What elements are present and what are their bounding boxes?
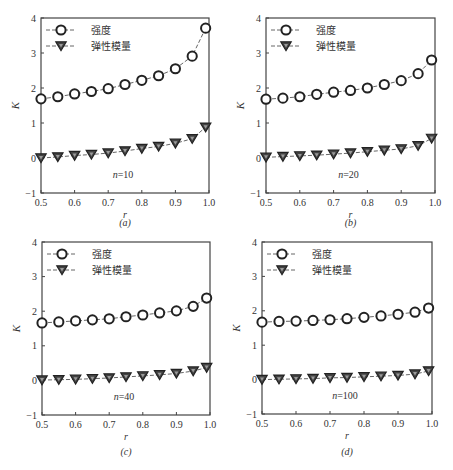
legend-circle-icon [56,25,65,34]
x-tick-label: 0.7 [102,197,115,208]
legend-label-modulus: 弹性模量 [92,264,132,276]
strength-marker [138,310,147,319]
y-tick-label: 0 [32,375,37,386]
y-tick-label: 0 [31,153,36,164]
legend-label-strength: 强度 [316,24,336,36]
legend: 强度弹性模量 [46,24,131,52]
strength-marker [155,308,164,317]
x-tick-label: 0.5 [35,197,48,208]
strength-marker [342,314,351,323]
y-tick-label: 1 [252,340,257,351]
x-tick-label: 0.6 [294,197,307,208]
legend-label-strength: 强度 [91,24,111,36]
strength-marker [188,52,197,61]
strength-marker [88,315,97,324]
legend-circle-icon [281,25,290,34]
strength-marker [54,317,63,326]
x-tick-label: 0.9 [395,197,408,208]
y-tick-label: 4 [31,13,36,24]
legend-label-modulus: 弹性模量 [91,40,131,52]
strength-marker [37,318,46,327]
strength-marker [380,80,389,89]
strength-marker [87,87,96,96]
strength-marker [120,80,129,89]
y-tick-label: 2 [252,305,257,316]
strength-marker [424,303,433,312]
x-tick-label: 0.7 [324,418,337,429]
strength-marker [274,317,283,326]
x-tick-label: 0.9 [170,419,183,430]
legend: 强度弹性模量 [47,248,132,276]
panel-caption: (a) [119,217,131,229]
panel-caption: (c) [120,446,132,458]
x-tick-label: 0.8 [358,418,371,429]
strength-marker [257,318,266,327]
x-tick-label: 0.6 [290,418,303,429]
y-tick-label: 3 [31,48,36,59]
strength-marker [121,312,130,321]
strength-marker [363,83,372,92]
legend-circle-icon [57,249,66,258]
legend-label-modulus: 弹性模量 [316,40,356,52]
n-annotation: n=40 [114,391,135,402]
x-tick-label: 0.8 [361,197,374,208]
x-tick-label: 1.0 [426,418,439,429]
x-tick-label: 0.5 [256,418,269,429]
strength-marker [137,76,146,85]
x-tick-label: 0.5 [260,197,273,208]
strength-marker [427,55,436,64]
strength-marker [172,306,181,315]
panel-caption: (d) [341,446,353,458]
x-tick-label: 0.6 [68,197,81,208]
x-tick-label: 0.8 [136,197,149,208]
x-tick-label: 1.0 [204,419,217,430]
y-axis-label: K [10,324,22,333]
y-tick-label: 4 [252,237,257,248]
y-axis-label: K [9,101,21,110]
x-tick-label: 0.6 [69,419,82,430]
y-tick-label: 2 [256,83,261,94]
strength-marker [308,316,317,325]
strength-marker [201,24,210,33]
y-tick-label: 1 [32,340,37,351]
strength-marker [53,92,62,101]
y-tick-label: 4 [32,237,37,248]
strength-marker [376,311,385,320]
y-axis-label: K [230,324,242,333]
y-tick-label: 1 [31,118,36,129]
strength-marker [105,314,114,323]
strength-marker [393,310,402,319]
x-tick-label: 1.0 [203,197,216,208]
y-tick-label: 0 [252,374,257,385]
panel-b: −1012340.50.60.70.80.91.0Kr(b)n=20强度弹性模量 [234,13,441,230]
legend-circle-icon [277,249,286,258]
x-axis-label: r [345,430,349,441]
strength-marker [312,90,321,99]
panel-caption: (b) [345,217,357,229]
panel-d: −1012340.50.60.70.80.91.0Kr(d)n=100强度弹性模… [230,237,438,459]
legend-label-modulus: 弹性模量 [312,264,352,276]
legend-label-strength: 强度 [312,248,332,260]
n-annotation: n=20 [338,169,359,180]
strength-marker [295,92,304,101]
x-tick-label: 0.8 [137,419,150,430]
strength-marker [189,302,198,311]
strength-marker [346,86,355,95]
y-tick-label: 4 [256,13,261,24]
y-axis-label: K [234,101,246,110]
x-tick-label: 0.9 [169,197,182,208]
x-tick-label: 0.5 [36,419,49,430]
strength-marker [291,317,300,326]
y-tick-label: 3 [252,271,257,282]
x-tick-label: 0.7 [103,419,116,430]
strength-marker [104,84,113,93]
y-tick-label: 2 [32,306,37,317]
y-tick-label: 2 [31,83,36,94]
figure-four-panel-plot: −1012340.50.60.70.80.91.0Kr(a)n=10强度弹性模量… [0,0,453,470]
strength-marker [329,88,338,97]
panel-a: −1012340.50.60.70.80.91.0Kr(a)n=10强度弹性模量 [9,13,215,230]
legend: 强度弹性模量 [267,248,352,276]
n-annotation: n=10 [113,169,134,180]
legend: 强度弹性模量 [271,24,356,52]
x-tick-label: 1.0 [429,197,442,208]
